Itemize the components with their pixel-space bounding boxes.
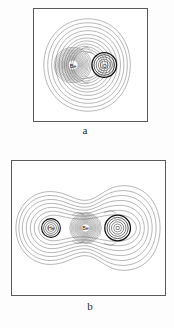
atom-label-he-b: He xyxy=(48,225,55,231)
panel-a: Be O 1Σ+ xyxy=(33,8,148,122)
panel-caption-b: b xyxy=(78,300,102,312)
atom-label-o-a: O xyxy=(103,63,107,69)
atom-label-be-a: Be xyxy=(70,63,76,69)
panel-a-contour-plot xyxy=(34,9,147,121)
panel-b: He Be O 1Σ+ xyxy=(11,160,166,296)
atom-label-o-b: O xyxy=(116,225,120,231)
panel-caption-a: a xyxy=(73,124,97,136)
contour-figure: Be O 1Σ+ a xyxy=(0,0,174,328)
atom-label-be-b: Be xyxy=(82,225,88,231)
